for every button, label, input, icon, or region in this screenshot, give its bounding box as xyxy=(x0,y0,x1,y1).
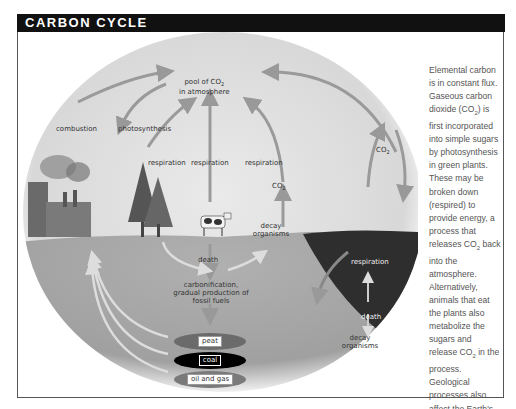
label-death-land: death xyxy=(198,256,218,264)
label-co2-ocean: CO2 xyxy=(376,146,390,156)
label-death-ocean: death xyxy=(361,313,381,321)
label-respiration-plants: respiration xyxy=(148,159,186,167)
label-decay-organisms-ocean: decay organisms xyxy=(340,334,380,350)
label-decay-organisms-land: decay organisms xyxy=(251,222,291,238)
carbon-cycle-diagram: pool of CO2in atmosphere combustion phot… xyxy=(18,32,418,397)
label-respiration-ocean: respiration xyxy=(351,258,389,266)
label-pool-atmosphere: pool of CO2in atmosphere xyxy=(179,78,230,96)
label-respiration-animals: respiration xyxy=(191,159,229,167)
header-bar: CARBON CYCLE xyxy=(17,14,505,32)
fossil-fuel-peat: peat xyxy=(174,333,246,350)
fossil-fuel-oil-gas: oil and gas xyxy=(174,371,246,388)
label-co2-land: CO2 xyxy=(272,182,286,192)
fossil-fuel-coal: coal xyxy=(174,352,246,369)
label-photosynthesis: photosynthesis xyxy=(118,125,171,133)
description-text: Elemental carbon is in constant flux. Ga… xyxy=(429,64,501,409)
label-combustion: combustion xyxy=(56,125,97,133)
label-respiration-decay: respiration xyxy=(245,159,283,167)
page-title: CARBON CYCLE xyxy=(25,15,148,30)
label-carbonification: carbonification, gradual production of f… xyxy=(170,281,252,305)
